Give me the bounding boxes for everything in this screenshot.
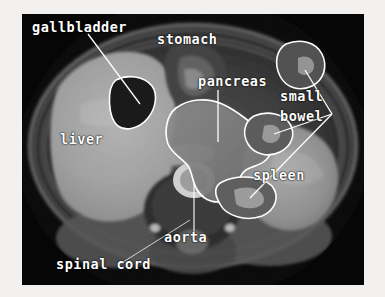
page-root: gallbladder stomach pancreas small bowel… — [0, 0, 385, 297]
label-liver: liver — [60, 132, 103, 146]
label-stomach: stomach — [157, 32, 217, 46]
mri-scan-frame: gallbladder stomach pancreas small bowel… — [22, 14, 364, 285]
label-aorta: aorta — [164, 230, 207, 244]
label-gallbladder: gallbladder — [32, 20, 127, 34]
label-spinal-cord: spinal cord — [56, 257, 151, 271]
label-small-bowel-line1: small — [280, 89, 323, 103]
label-pancreas: pancreas — [198, 74, 267, 88]
label-small-bowel-line2: bowel — [280, 109, 323, 123]
label-spleen: spleen — [253, 168, 305, 182]
